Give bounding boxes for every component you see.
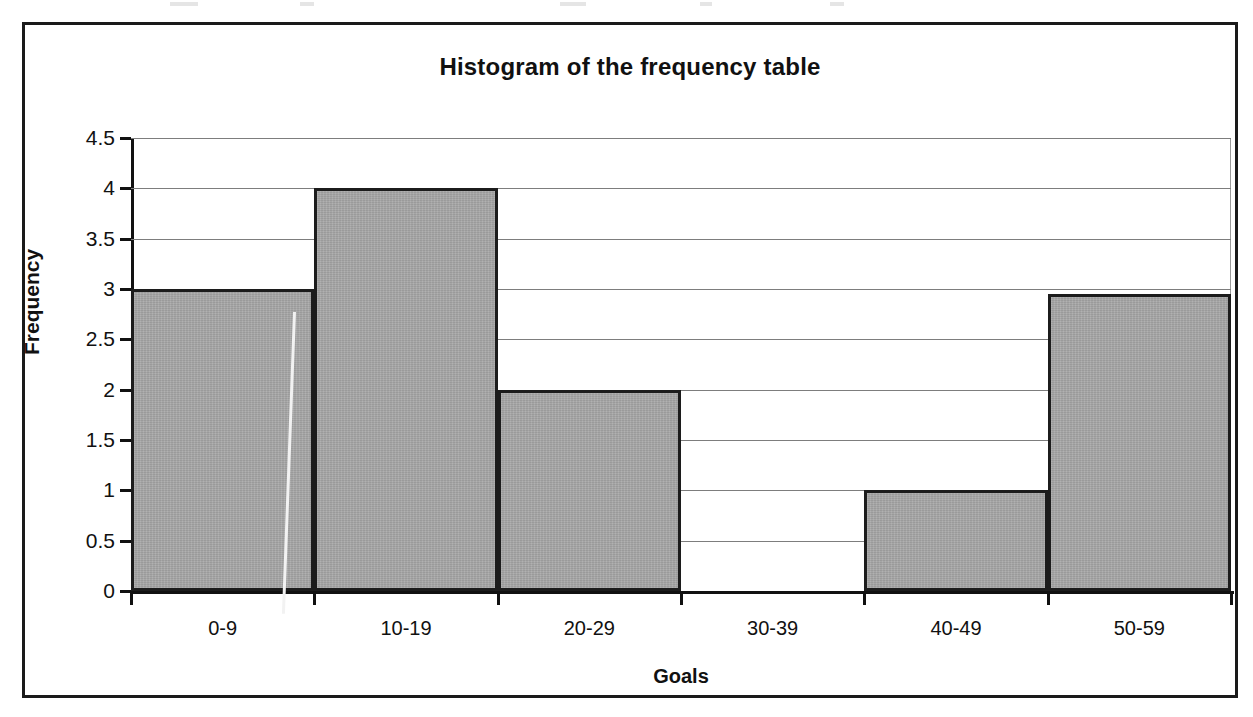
histogram-bar: [498, 390, 681, 591]
x-axis-tick: [863, 591, 866, 605]
y-axis-tick-label: 0: [61, 580, 115, 601]
y-axis-tick: [120, 338, 131, 341]
scan-dust-mark: [170, 2, 198, 6]
y-axis-tick-label: 1.5: [61, 429, 115, 450]
x-axis-tick: [1047, 591, 1050, 605]
chart-title: Histogram of the frequency table: [25, 53, 1235, 81]
y-axis-tick: [120, 389, 131, 392]
y-axis-tick-label: 0.5: [61, 530, 115, 551]
histogram-bar: [1048, 294, 1231, 591]
x-axis-tick: [680, 591, 683, 605]
scan-dust-mark: [700, 2, 712, 6]
y-axis-tick-label: 3: [61, 278, 115, 299]
histogram-bar: [314, 188, 497, 591]
y-axis-tick: [120, 489, 131, 492]
x-axis-tick: [313, 591, 316, 605]
scan-dust-mark: [300, 2, 314, 6]
scan-dust-mark: [830, 2, 844, 6]
y-axis-tick-label: 1: [61, 479, 115, 500]
x-axis-tick-label: 30-39: [681, 617, 864, 640]
scan-dust-mark: [560, 2, 586, 6]
plot-area: [131, 138, 1231, 591]
y-axis-tick: [120, 439, 131, 442]
y-axis-tick-label: 2: [61, 379, 115, 400]
y-axis-tick-label: 4: [61, 177, 115, 198]
y-axis-tick: [120, 540, 131, 543]
x-axis-tick: [130, 591, 133, 605]
y-axis-tick: [120, 187, 131, 190]
y-axis-title: Frequency: [20, 249, 44, 355]
x-axis-tick: [1230, 591, 1233, 605]
figure-frame: Histogram of the frequency table Frequen…: [22, 22, 1238, 698]
y-axis-tick-labels: 00.511.522.533.544.5: [55, 25, 115, 717]
y-axis-tick: [120, 137, 131, 140]
x-axis-tick: [497, 591, 500, 605]
x-axis-tick-label: 10-19: [314, 617, 497, 640]
histogram-bar: [131, 289, 314, 591]
y-axis-tick-label: 2.5: [61, 328, 115, 349]
y-axis-tick: [120, 238, 131, 241]
y-axis-tick-label: 3.5: [61, 228, 115, 249]
x-axis-tick-label: 50-59: [1048, 617, 1231, 640]
y-axis-tick-label: 4.5: [61, 127, 115, 148]
x-axis-tick-label: 0-9: [131, 617, 314, 640]
histogram-bar: [864, 490, 1047, 591]
x-axis-tick-label: 20-29: [498, 617, 681, 640]
x-axis-tick-label: 40-49: [864, 617, 1047, 640]
x-axis-title: Goals: [131, 665, 1231, 688]
y-axis-tick: [120, 288, 131, 291]
